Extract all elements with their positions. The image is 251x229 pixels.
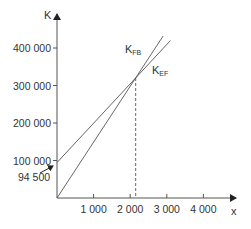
x-ticks: 1 0002 0003 0004 000 xyxy=(80,194,216,215)
x-tick-label: 4 000 xyxy=(190,203,216,215)
y-tick-label: 200 000 xyxy=(13,117,51,129)
kfb-line xyxy=(57,36,163,198)
kef-line xyxy=(57,41,170,163)
x-axis-label: x xyxy=(231,205,237,217)
kef-label: KEF xyxy=(152,64,168,77)
x-tick-label: 1 000 xyxy=(80,203,106,215)
fixed-cost-label: 94 500 xyxy=(18,171,50,183)
y-tick-label: 300 000 xyxy=(13,80,51,92)
y-ticks: 100 000200 000300 000400 000 xyxy=(13,42,57,167)
x-tick-label: 2 000 xyxy=(117,203,143,215)
y-tick-label: 100 000 xyxy=(13,155,51,167)
y-axis-label: K xyxy=(44,9,52,21)
y-tick-label: 400 000 xyxy=(13,42,51,54)
x-tick-label: 3 000 xyxy=(154,203,180,215)
kfb-label: KFB xyxy=(125,43,142,56)
break-even-chart: K x 100 000200 000300 000400 000 1 0002 … xyxy=(0,0,251,229)
